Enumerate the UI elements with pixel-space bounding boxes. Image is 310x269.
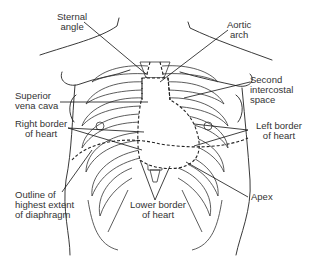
label-aortic-arch: Aortic arch <box>227 20 251 40</box>
label-outline-of-diaphragm: Outline of highest extent of diaphragm <box>15 190 74 220</box>
label-apex: Apex <box>251 192 273 202</box>
label-left-border-of-heart: Left border of heart <box>256 121 302 141</box>
label-second-intercostal-space: Second intercostal space <box>250 75 293 105</box>
label-sternal-angle: Sternal angle <box>57 12 87 32</box>
label-superior-vena-cava: Superior vena cava <box>15 91 58 111</box>
label-right-border-of-heart: Right border of heart <box>15 119 67 139</box>
label-lower-border-of-heart: Lower border of heart <box>130 200 186 220</box>
